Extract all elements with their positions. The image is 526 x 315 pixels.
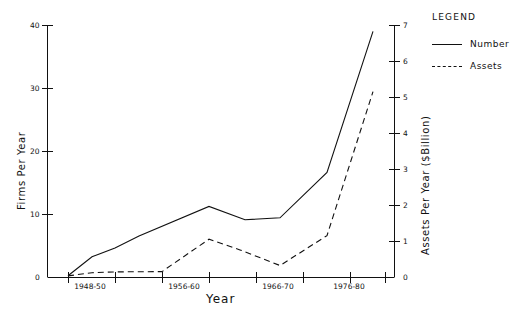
axis-lines [48,25,395,278]
series-line-number [68,31,373,275]
plot-area [0,0,526,315]
chart-figure: Firms Per Year Assets Per Year ($Billion… [0,0,526,315]
